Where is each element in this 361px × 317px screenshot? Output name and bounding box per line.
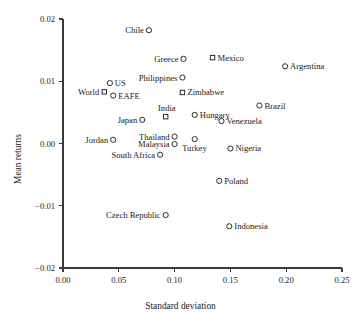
data-point-marker	[111, 137, 116, 142]
y-tick-label: 0.01	[15, 77, 55, 86]
data-point-marker	[157, 152, 162, 157]
data-point-label: Venezuela	[226, 117, 261, 126]
data-point-label: US	[115, 79, 126, 88]
data-markers-group	[102, 28, 288, 229]
data-point-marker	[107, 81, 112, 86]
data-point-marker	[192, 137, 197, 142]
data-point-label: Czech Republic	[106, 211, 161, 220]
data-point-marker	[282, 64, 287, 69]
data-point-marker	[257, 103, 262, 108]
data-point-marker	[163, 212, 168, 217]
data-point-marker	[163, 115, 167, 119]
data-point-marker	[111, 93, 116, 98]
data-point-label: World	[78, 88, 99, 97]
data-point-marker	[228, 146, 233, 151]
x-tick-label: 0.10	[167, 276, 182, 285]
x-tick-label: 0.05	[111, 276, 126, 285]
x-tick-label: 0.20	[279, 276, 294, 285]
data-point-marker	[192, 112, 197, 117]
data-point-marker	[217, 178, 222, 183]
x-tick-label: 0.15	[223, 276, 238, 285]
data-point-marker	[172, 134, 177, 139]
x-axis-title: Standard deviation	[0, 301, 361, 311]
scatter-chart-figure: 0.000.050.100.150.200.25 0.020.010.00−0.…	[0, 0, 361, 317]
x-tick-label: 0.00	[55, 276, 70, 285]
data-point-marker	[180, 75, 185, 80]
data-point-label: Japan	[118, 116, 138, 125]
data-point-label: Nigeria	[235, 144, 261, 153]
data-point-label: Turkey	[182, 144, 207, 153]
data-point-label: Zimbabwe	[187, 88, 224, 97]
data-point-marker	[210, 55, 214, 59]
data-point-marker	[140, 117, 145, 122]
data-point-label: Philippines	[139, 73, 178, 82]
data-point-marker	[146, 28, 151, 33]
data-point-label: Mexico	[218, 53, 244, 62]
data-point-label: Poland	[224, 177, 248, 186]
data-point-label: Jordan	[85, 135, 108, 144]
data-point-label: Indonesia	[234, 222, 267, 231]
data-point-label: Argentina	[290, 62, 324, 71]
data-point-label: Greece	[154, 55, 178, 64]
data-point-marker	[227, 224, 232, 229]
data-point-label: Hungary	[200, 111, 230, 120]
y-tick-label: −0.02	[15, 264, 55, 273]
x-tick-label: 0.25	[334, 276, 349, 285]
data-point-label: Brazil	[264, 101, 285, 110]
data-point-marker	[172, 142, 177, 147]
data-point-label: Chile	[125, 26, 144, 35]
data-point-marker	[102, 90, 106, 94]
y-tick-label: 0.02	[15, 15, 55, 24]
data-point-label: Malaysia	[138, 140, 170, 149]
data-point-label: South Africa	[111, 150, 155, 159]
y-axis-title: Mean returns	[13, 89, 23, 229]
data-point-marker	[181, 56, 186, 61]
data-point-label: India	[158, 103, 176, 112]
data-point-marker	[180, 90, 184, 94]
data-point-label: EAFE	[118, 91, 139, 100]
